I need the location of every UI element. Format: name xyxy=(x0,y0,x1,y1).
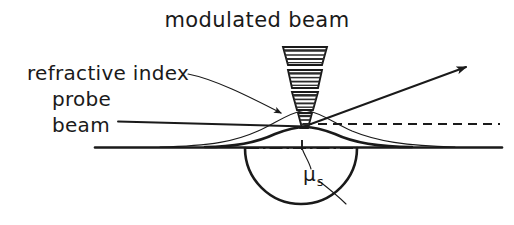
modulated-beam-label: modulated beam xyxy=(165,8,350,32)
probe-label: probe xyxy=(52,87,111,111)
photothermal-deflection-diagram: modulated beam refractive index probe be… xyxy=(0,0,514,225)
beam-label: beam xyxy=(52,113,110,137)
mu-subscript: s xyxy=(317,174,324,189)
mu-symbol: μ xyxy=(303,162,316,186)
refractive-index-label: refractive index xyxy=(27,61,189,85)
diagram-canvas: modulated beam refractive index probe be… xyxy=(0,0,514,225)
